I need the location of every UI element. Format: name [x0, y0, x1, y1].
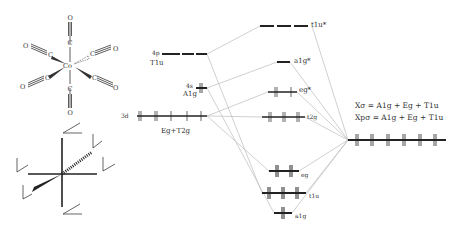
- mo-eg: [269, 165, 299, 177]
- mo-a1g-label: a1g: [295, 213, 306, 219]
- metal-4s-shell-label: 4s: [186, 83, 193, 89]
- ligand-sigma-formula: Xσ = A1g + Eg + T1u: [355, 101, 439, 110]
- svg-text:Co: Co: [63, 62, 72, 70]
- mo-t2g: [262, 112, 305, 122]
- mo-t1u-star-label: t1u*: [311, 22, 326, 29]
- svg-text:C: C: [68, 39, 73, 47]
- ligand-pi-formula: Xpσ = A1g + Eg + T1u: [355, 113, 443, 122]
- mo-t1u-label: t1u: [309, 193, 319, 199]
- metal-3d-symmetry-label: Eg+T2g: [161, 128, 190, 135]
- svg-text:C: C: [90, 50, 95, 58]
- svg-text:O: O: [20, 83, 25, 91]
- mo-a1g-star-label: a1g*: [294, 58, 311, 65]
- metal-4p-symmetry-label: T1u: [150, 60, 164, 67]
- svg-text:C: C: [92, 74, 97, 82]
- metal-4p-shell-label: 4p: [152, 50, 160, 56]
- mo-t2g-label: t2g: [307, 114, 317, 120]
- svg-text:C: C: [45, 74, 50, 82]
- svg-text:O: O: [68, 109, 73, 117]
- metal-4s-symmetry-label: A1g: [183, 91, 197, 98]
- mo-eg-star: [268, 87, 297, 97]
- svg-text:O: O: [68, 14, 73, 22]
- mo-t1u: [262, 187, 306, 199]
- ligand-group-orbitals-level: [348, 134, 446, 146]
- svg-text:O: O: [23, 42, 28, 50]
- atom-labels: O C O C O C O C O C Co C O: [20, 14, 118, 117]
- metal-4s-level: [196, 83, 207, 93]
- mo-eg-star-label: eg*: [299, 87, 311, 94]
- metal-3d-shell-label: 3d: [121, 113, 129, 119]
- metal-3d-level: [137, 111, 207, 121]
- coordinate-axes-sketch: [17, 123, 115, 214]
- connector-lines: [207, 26, 348, 213]
- svg-text:O: O: [113, 84, 118, 92]
- svg-text:C: C: [48, 51, 53, 59]
- mo-a1g: [274, 207, 292, 219]
- svg-text:O: O: [113, 45, 118, 53]
- mo-eg-label: eg: [301, 172, 308, 178]
- svg-text:C: C: [68, 85, 73, 93]
